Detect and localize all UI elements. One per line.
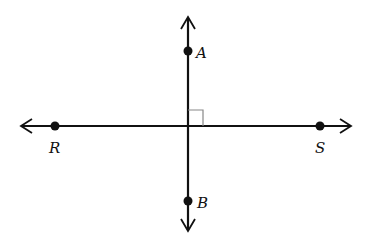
label-b: B (196, 194, 208, 212)
point-s (316, 122, 325, 131)
label-a: A (194, 44, 207, 62)
point-b (184, 197, 193, 206)
label-s: S (315, 139, 325, 157)
right-angle-marker (188, 110, 203, 126)
label-r: R (48, 139, 60, 157)
line-rs (21, 119, 351, 133)
perpendicular-lines-diagram: A B R S (0, 0, 374, 238)
point-r (51, 122, 60, 131)
point-a (184, 47, 193, 56)
